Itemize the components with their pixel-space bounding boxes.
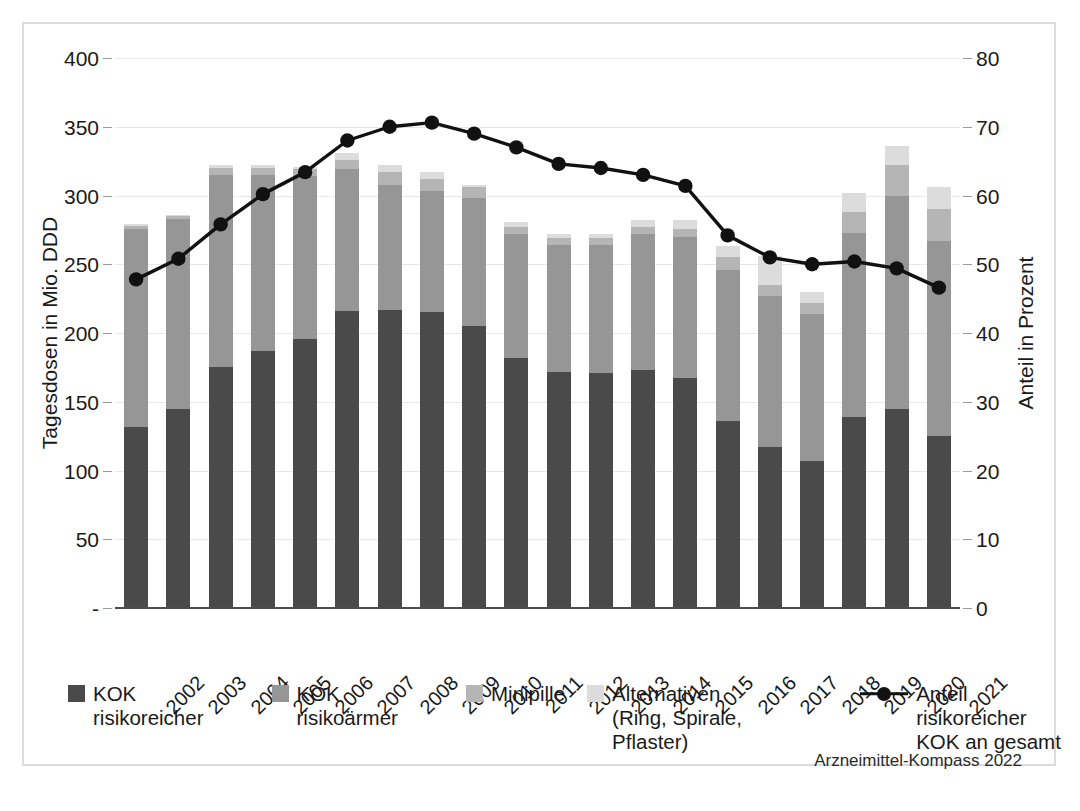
bar-column[interactable] [716, 246, 740, 608]
y-axis-right-tickmark [963, 471, 972, 472]
bar-segment [293, 167, 317, 170]
bar-segment [758, 285, 782, 296]
bar-column[interactable] [251, 165, 275, 608]
bar-column[interactable] [504, 222, 528, 608]
bar-column[interactable] [209, 165, 233, 608]
bar-segment [842, 233, 866, 417]
bar-segment [842, 193, 866, 212]
bar-segment [293, 176, 317, 338]
bar-segment [378, 172, 402, 184]
bar-column[interactable] [589, 234, 613, 608]
bar-column[interactable] [927, 187, 951, 608]
line-data-point[interactable] [509, 140, 523, 154]
bar-column[interactable] [800, 292, 824, 608]
y-axis-left-tick-label: 400 [64, 48, 99, 69]
y-axis-left-tickmark [103, 608, 112, 609]
bar-column[interactable] [462, 185, 486, 609]
y-axis-left-tickmark [103, 333, 112, 334]
bar-column[interactable] [378, 165, 402, 608]
legend-line-marker-icon [860, 685, 908, 702]
y-axis-left-tick-label: 250 [64, 254, 99, 275]
bar-segment [885, 196, 909, 409]
y-axis-left-tickmark [103, 539, 112, 540]
legend-color-swatch [587, 685, 604, 702]
bar-segment [758, 296, 782, 447]
bar-segment [124, 224, 148, 225]
y-axis-right-tickmark [963, 127, 972, 128]
bar-segment [462, 326, 486, 608]
line-data-point[interactable] [594, 161, 608, 175]
bar-segment [378, 185, 402, 310]
bar-segment [631, 227, 655, 234]
y-axis-right-tickmark [963, 58, 972, 59]
bar-segment [420, 172, 444, 179]
line-data-point[interactable] [551, 157, 565, 171]
bar-segment [166, 409, 190, 608]
bar-column[interactable] [631, 220, 655, 608]
line-data-point[interactable] [340, 133, 354, 147]
legend-item-label: KOK risikoreicher [93, 682, 250, 730]
bar-column[interactable] [842, 193, 866, 608]
legend-item[interactable]: Alternativen (Ring, Spirale, Pflaster) [587, 682, 820, 755]
legend-item[interactable]: Minipille [466, 682, 565, 706]
bar-column[interactable] [758, 256, 782, 608]
bar-column[interactable] [885, 146, 909, 608]
bar-column[interactable] [124, 224, 148, 608]
gridline [115, 264, 960, 265]
y-axis-right-tickmark [963, 539, 972, 540]
bar-segment [166, 215, 190, 216]
y-axis-left-tickmark [103, 127, 112, 128]
bar-segment [504, 358, 528, 608]
y-axis-left-tickmark [103, 58, 112, 59]
chart-legend: KOK risikoreicherKOK risikoärmerMinipill… [68, 682, 1080, 755]
bar-segment [293, 169, 317, 176]
bar-column[interactable] [547, 234, 571, 608]
bar-segment [251, 168, 275, 175]
y-axis-left-tickmark [103, 402, 112, 403]
bar-segment [631, 370, 655, 608]
y-axis-right-title-text: Anteil in Prozent [1014, 257, 1038, 410]
bar-segment [800, 461, 824, 608]
bar-segment [166, 219, 190, 409]
legend-color-swatch [272, 685, 289, 702]
bar-segment [462, 187, 486, 198]
y-axis-right-tick-label: 80 [976, 48, 999, 69]
bar-segment [927, 187, 951, 209]
y-axis-right-title: Anteil in Prozent [1012, 58, 1040, 608]
bar-segment [335, 169, 359, 311]
y-axis-left-tickmark [103, 264, 112, 265]
line-data-point[interactable] [467, 126, 481, 140]
line-data-point[interactable] [720, 228, 734, 242]
legend-item[interactable]: KOK risikoärmer [272, 682, 445, 730]
plot-area: -50100150200250300350400 010203040506070… [115, 58, 960, 608]
y-axis-right-tickmark [963, 402, 972, 403]
y-axis-left-tick-label: 350 [64, 116, 99, 137]
bar-column[interactable] [293, 167, 317, 608]
bar-segment [462, 198, 486, 326]
y-axis-left-tick-label: 150 [64, 391, 99, 412]
legend-color-swatch [68, 685, 85, 702]
legend-item[interactable]: Anteil risikoreicher KOK an gesamt [860, 682, 1080, 755]
y-axis-right-tickmark [963, 264, 972, 265]
y-axis-left-title-text: Tagesdosen in Mio. DDD [38, 217, 62, 449]
y-axis-left-tick-label: 50 [76, 529, 99, 550]
bar-segment [716, 270, 740, 421]
gridline [115, 58, 960, 59]
bar-segment [589, 245, 613, 373]
line-data-point[interactable] [636, 168, 650, 182]
bar-segment [885, 409, 909, 608]
bar-column[interactable] [673, 220, 697, 608]
bar-segment [758, 256, 782, 285]
bar-segment [251, 165, 275, 168]
bar-segment [927, 436, 951, 608]
bar-segment [335, 311, 359, 608]
bar-column[interactable] [166, 215, 190, 608]
y-axis-right-tick-label: 40 [976, 323, 999, 344]
legend-item[interactable]: KOK risikoreicher [68, 682, 250, 730]
gridline [115, 402, 960, 403]
plot-inner: -50100150200250300350400 010203040506070… [115, 58, 960, 608]
line-data-point[interactable] [678, 179, 692, 193]
bar-column[interactable] [335, 153, 359, 608]
bar-column[interactable] [420, 172, 444, 608]
bar-segment [124, 427, 148, 609]
